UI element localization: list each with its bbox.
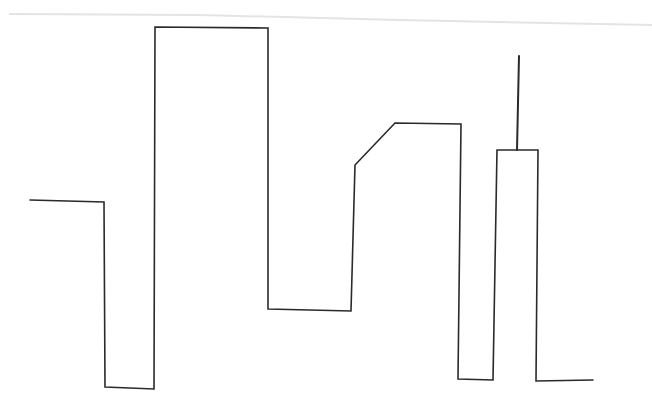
skyline-outline-path [30,27,593,389]
scan-smudge-line [10,14,652,25]
hand-drawn-skyline-sketch [0,0,652,410]
antenna-line [517,56,519,150]
